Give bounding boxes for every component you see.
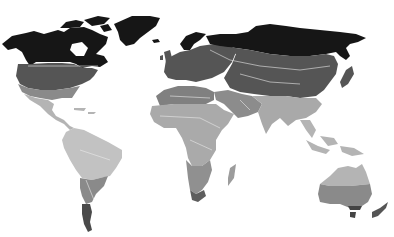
world-map [0, 0, 394, 237]
tasmania [350, 212, 356, 218]
world-map-svg [0, 0, 394, 237]
victoria-south-coast [348, 206, 362, 210]
